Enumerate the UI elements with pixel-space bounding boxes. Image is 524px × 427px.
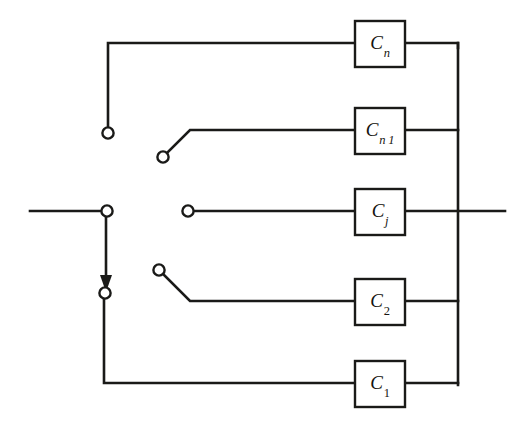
block-c1-label: C1: [370, 372, 389, 398]
terminal-wiper-node[interactable]: [99, 287, 110, 298]
circuit-schematic-canvas: [0, 0, 524, 427]
block-c2-label: C2: [370, 290, 389, 316]
block-cn1-label: Cn 1: [366, 119, 394, 145]
wire-cn1-left-segment: [166, 130, 355, 154]
wire-c1-left-segment: [104, 297, 355, 383]
terminal-cn1-pivot[interactable]: [157, 151, 168, 162]
block-cj-label: Cj: [372, 200, 389, 226]
terminal-cj-contact[interactable]: [182, 205, 193, 216]
terminal-cn-contact[interactable]: [102, 127, 113, 138]
wire-c2-left-segment: [162, 273, 355, 301]
wire-c2-branch: [162, 273, 458, 301]
wire-cn1-branch: [166, 130, 458, 154]
block-cn-label: Cn: [370, 32, 389, 58]
circuit-diagram: Cn Cn 1 Cj C2 C1: [0, 0, 524, 427]
wire-cn-right-segment: [405, 43, 458, 48]
wiper-selector: [100, 214, 112, 292]
wire-cn-left-segment: [108, 43, 355, 133]
terminal-input-node[interactable]: [101, 205, 112, 216]
terminal-c2-pivot[interactable]: [153, 264, 164, 275]
